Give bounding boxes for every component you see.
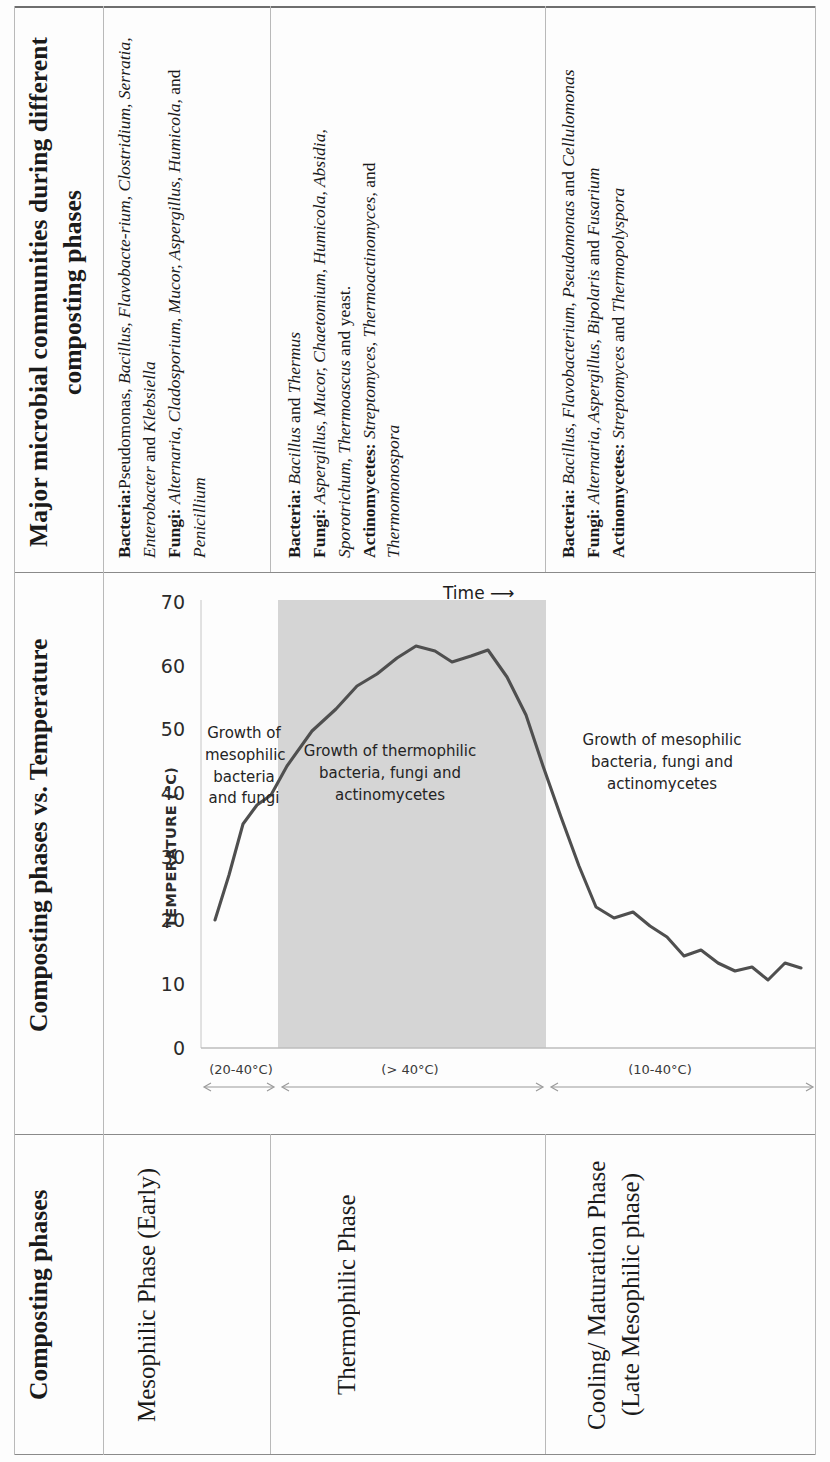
microbe-taxa-italic2: Fusarium bbox=[583, 168, 603, 236]
time-axis-label: Time ⟶ bbox=[443, 583, 514, 603]
phase-name-mesophilic: Mesophilic Phase (Early) bbox=[130, 1155, 238, 1435]
microbe-entry: Fungi: Alternaria, Cladosporium, Mucor, … bbox=[162, 28, 212, 558]
microbe-taxa-tail: and bbox=[139, 432, 159, 462]
microbe-taxa-italic: Bacillus bbox=[284, 423, 304, 485]
microbe-taxa-italic: Streptomyces, Thermoactinomyces, bbox=[359, 188, 379, 439]
row-header-composting-phases: Composting phases bbox=[22, 1160, 108, 1430]
microbe-taxa-italic: Alternaria, Aspergillus, Bipolaris bbox=[583, 265, 603, 504]
microbes-cooling: Bacteria: Bacillus, Flavobacterium, Pseu… bbox=[556, 28, 756, 558]
phase-name-cooling: Cooling/ Maturation Phase (Late Mesophil… bbox=[580, 1155, 690, 1435]
microbe-group-label: Bacteria: bbox=[114, 489, 134, 558]
range-arrow-cooling bbox=[551, 1083, 813, 1091]
microbe-taxa-plain: Pseudomonas, bbox=[114, 384, 134, 489]
column-divider-3-bottom bbox=[545, 1134, 546, 1454]
microbe-group-label: Bacteria: bbox=[284, 489, 304, 558]
range-arrow-thermophilic bbox=[282, 1083, 543, 1091]
microbe-taxa-italic2: Thermopolyspora bbox=[608, 188, 628, 312]
microbe-taxa-italic2: Thermus bbox=[284, 332, 304, 393]
microbe-group-label: Fungi: bbox=[583, 508, 603, 558]
time-axis-text: Time bbox=[443, 583, 485, 603]
microbes-thermophilic: Bacteria: Bacillus and Thermus Fungi: As… bbox=[282, 28, 512, 558]
table-bottom-border bbox=[14, 1454, 816, 1455]
microbe-entry: Bacteria: Bacillus and Thermus bbox=[282, 28, 307, 558]
plot-area bbox=[105, 578, 815, 1134]
microbe-group-label: Actinomycetes: bbox=[608, 443, 628, 558]
microbe-taxa-italic: Streptomyces bbox=[608, 342, 628, 439]
row-divider-1 bbox=[14, 572, 816, 573]
column-divider-2-top bbox=[270, 6, 271, 572]
composting-temperature-chart: TEMPERATURE (°C) 70 60 50 40 30 20 10 0 bbox=[105, 578, 815, 1134]
table-top-border bbox=[14, 6, 816, 8]
annotation-mesophilic: Growth of mesophilic bacteria and fungi bbox=[205, 723, 283, 810]
thermophilic-shaded-band bbox=[278, 600, 546, 1048]
microbe-taxa-italic: Bacillus, Flavobacterium, Pseudomonas bbox=[558, 196, 578, 484]
microbe-taxa-tail: and bbox=[583, 236, 603, 266]
microbe-group-label: Fungi: bbox=[309, 508, 329, 558]
range-label-cooling: (10-40°C) bbox=[605, 1062, 715, 1077]
microbe-taxa-tail: and bbox=[359, 163, 379, 188]
microbe-entry: Bacteria:Pseudomonas, Bacillus, Flavobac… bbox=[112, 28, 162, 558]
microbe-entry: Actinomycetes: Streptomyces, Thermoactin… bbox=[357, 28, 407, 558]
microbe-entry: Actinomycetes: Streptomyces and Thermopo… bbox=[606, 28, 631, 558]
microbe-group-label: Bacteria: bbox=[558, 489, 578, 558]
microbe-taxa-italic: Alternaria, Cladosporium, Mucor, Aspergi… bbox=[164, 95, 184, 504]
microbes-mesophilic: Bacteria:Pseudomonas, Bacillus, Flavobac… bbox=[112, 28, 252, 558]
microbe-entry: Bacteria: Bacillus, Flavobacterium, Pseu… bbox=[556, 28, 581, 558]
range-label-thermophilic: (> 40°C) bbox=[355, 1062, 465, 1077]
range-arrow-mesophilic bbox=[204, 1083, 274, 1091]
row-divider-2 bbox=[14, 1134, 816, 1135]
range-label-mesophilic: (20-40°C) bbox=[201, 1062, 281, 1077]
microbe-taxa-tail: and bbox=[164, 69, 184, 94]
row-header-chart: Composting phases vs. Temperature bbox=[22, 600, 108, 1070]
microbe-group-label: Fungi: bbox=[164, 508, 184, 558]
microbe-entry: Fungi: Alternaria, Aspergillus, Bipolari… bbox=[581, 28, 606, 558]
microbe-taxa-tail: and bbox=[558, 167, 578, 197]
microbe-taxa-italic2: Thermomonospora bbox=[383, 425, 403, 558]
row-header-microbial-communities: Major microbial communities during diffe… bbox=[22, 22, 108, 562]
annotation-thermophilic: Growth of thermophilic bacteria, fungi a… bbox=[291, 741, 489, 806]
arrow-right-icon: ⟶ bbox=[490, 583, 514, 603]
microbe-taxa-tail: and yeast. bbox=[334, 286, 354, 356]
table-left-border bbox=[14, 6, 15, 1455]
microbe-taxa-tail: and bbox=[284, 393, 304, 423]
microbe-taxa-italic2: Klebsiella bbox=[139, 361, 159, 432]
table-right-border bbox=[815, 6, 816, 1455]
microbe-taxa-tail: and bbox=[608, 312, 628, 342]
annotation-cooling: Growth of mesophilic bacteria, fungi and… bbox=[557, 730, 767, 795]
column-divider-3-top bbox=[545, 6, 546, 572]
phase-name-thermophilic: Thermophilic Phase bbox=[330, 1155, 390, 1435]
microbe-group-label: Actinomycetes: bbox=[359, 443, 379, 558]
column-divider-2-bottom bbox=[270, 1134, 271, 1454]
microbe-taxa-italic2: Cellulomonas bbox=[558, 70, 578, 167]
microbe-taxa-italic2: Penicillium bbox=[189, 477, 209, 558]
microbe-entry: Fungi: Aspergillus, Mucor, Chaetomium, H… bbox=[307, 28, 357, 558]
